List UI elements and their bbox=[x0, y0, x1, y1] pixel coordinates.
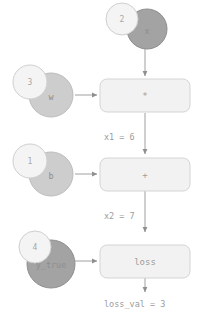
operation-label-loss: loss bbox=[134, 257, 156, 267]
value-label-b: 1 bbox=[28, 157, 33, 166]
variable-label-y-true: y_true bbox=[36, 260, 67, 270]
variable-node-w[interactable]: 3 w bbox=[13, 65, 73, 117]
variable-label-b: b bbox=[48, 171, 53, 181]
variable-label-x: x bbox=[144, 26, 149, 36]
variable-node-y-true[interactable]: 4 y_true bbox=[19, 231, 75, 288]
value-label-y-true: 4 bbox=[33, 243, 38, 252]
operation-node-add[interactable]: + bbox=[100, 158, 190, 191]
variable-label-w: w bbox=[48, 92, 54, 102]
graph-canvas: 2 x 3 w 1 b 4 y_true * bbox=[0, 0, 199, 314]
value-label-w: 3 bbox=[28, 78, 33, 87]
value-label-x: 2 bbox=[120, 15, 125, 24]
operation-label-add: + bbox=[142, 170, 148, 180]
variable-node-x[interactable]: 2 x bbox=[106, 3, 167, 49]
edge-label-loss-val: loss_val = 3 bbox=[104, 299, 165, 309]
edge-label-x1: x1 = 6 bbox=[104, 132, 135, 142]
edge-label-x2: x2 = 7 bbox=[104, 211, 135, 221]
operation-label-mul: * bbox=[142, 91, 147, 101]
operation-node-loss[interactable]: loss bbox=[100, 245, 190, 278]
operation-node-mul[interactable]: * bbox=[100, 79, 190, 112]
variable-node-b[interactable]: 1 b bbox=[13, 144, 73, 196]
computational-graph-diagram: 2 x 3 w 1 b 4 y_true * bbox=[0, 0, 199, 314]
